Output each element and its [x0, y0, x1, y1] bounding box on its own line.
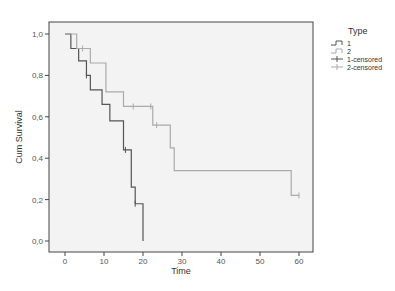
step-line-icon — [330, 39, 344, 47]
y-tick-label: 0,6 — [32, 113, 44, 122]
x-tick-label: 20 — [139, 257, 148, 266]
legend-item-2: 2 — [330, 47, 382, 55]
y-tick-label: 0,2 — [32, 196, 44, 205]
plot-area — [49, 22, 313, 252]
legend-title: Type — [348, 26, 382, 36]
x-tick-label: 50 — [256, 257, 265, 266]
legend-label: 1-censored — [347, 56, 382, 63]
x-tick-label: 0 — [63, 257, 68, 266]
x-tick-label: 30 — [178, 257, 187, 266]
legend-label: 1 — [347, 40, 351, 47]
x-axis: 0102030405060 — [63, 252, 304, 266]
y-axis: 0,00,20,40,60,81,0 — [32, 30, 49, 246]
y-tick-label: 0,4 — [32, 154, 44, 163]
legend: Type 1 2 1-censored 2-censored — [330, 26, 382, 71]
y-tick-label: 1,0 — [32, 30, 44, 39]
step-line-icon — [330, 47, 344, 55]
legend-item-1-censored: 1-censored — [330, 55, 382, 63]
legend-label: 2 — [347, 48, 351, 55]
legend-item-1: 1 — [330, 39, 382, 47]
legend-label: 2-censored — [347, 64, 382, 71]
censor-mark-icon — [330, 63, 344, 71]
y-tick-label: 0,8 — [32, 71, 44, 80]
x-tick-label: 10 — [100, 257, 109, 266]
censor-mark-icon — [330, 55, 344, 63]
x-tick-label: 60 — [295, 257, 304, 266]
x-axis-label: Time — [171, 266, 191, 276]
y-tick-label: 0,0 — [32, 237, 44, 246]
legend-item-2-censored: 2-censored — [330, 63, 382, 71]
x-tick-label: 40 — [217, 257, 226, 266]
y-axis-label: Cum Survival — [14, 110, 24, 164]
